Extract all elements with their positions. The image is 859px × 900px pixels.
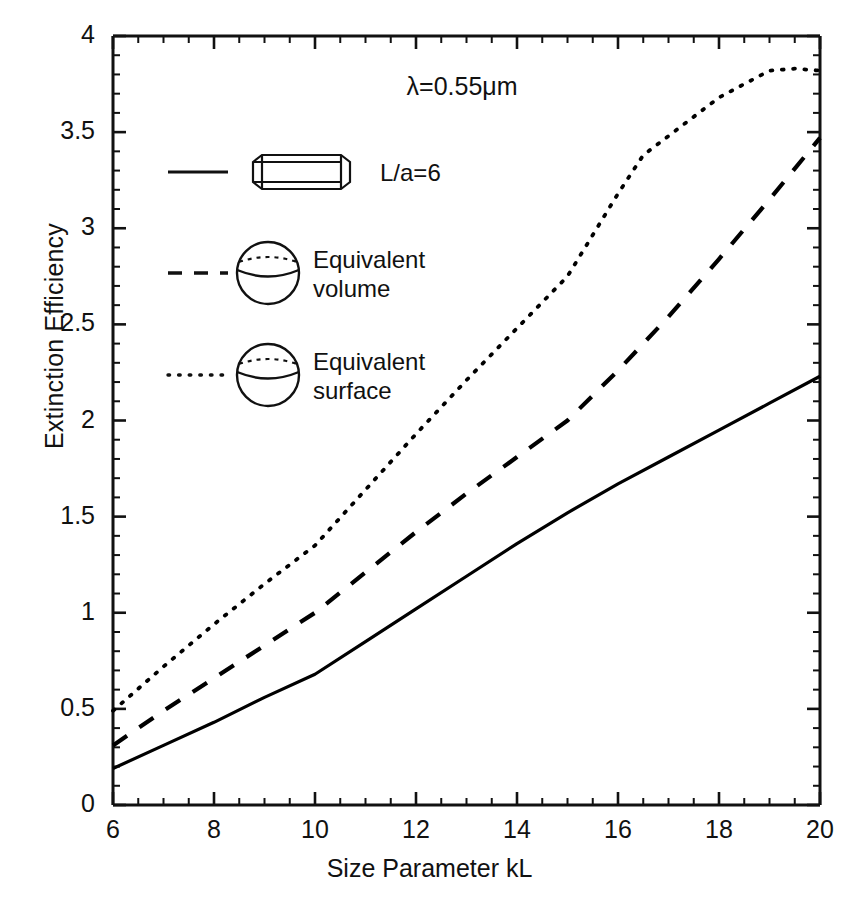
y-tick-label: 2.5 (35, 308, 95, 337)
x-tick-label: 16 (588, 815, 648, 844)
y-tick-label: 0 (35, 789, 95, 818)
series-layer (113, 69, 820, 769)
series-line-2 (113, 69, 820, 711)
y-tick-label: 3 (35, 212, 95, 241)
legend-label-0: L/a=6 (380, 158, 441, 187)
sphere-icon-volume (237, 242, 299, 304)
figure: Extinction Efficiency Size Parameter kL … (0, 0, 859, 900)
x-tick-label: 8 (184, 815, 244, 844)
x-tick-label: 6 (83, 815, 143, 844)
legend-label-1: Equivalent volume (313, 245, 425, 303)
lambda-annotation: λ=0.55μm (407, 72, 518, 101)
x-tick-label: 10 (285, 815, 345, 844)
legend-label-2: Equivalent surface (313, 347, 425, 405)
axes-frame (113, 36, 820, 805)
y-tick-label: 0.5 (35, 693, 95, 722)
x-tick-label: 14 (487, 815, 547, 844)
series-line-1 (113, 138, 820, 746)
x-tick-label: 20 (790, 815, 850, 844)
x-tick-label: 12 (386, 815, 446, 844)
cylinder-icon (253, 155, 350, 189)
y-tick-label: 1.5 (35, 501, 95, 530)
y-tick-label: 1 (35, 597, 95, 626)
x-axis-title: Size Parameter kL (0, 854, 859, 883)
y-tick-label: 3.5 (35, 116, 95, 145)
chart-canvas (0, 0, 859, 900)
series-line-0 (113, 376, 820, 768)
x-tick-label: 18 (689, 815, 749, 844)
y-tick-label: 2 (35, 405, 95, 434)
ticks-layer (113, 36, 820, 805)
y-tick-label: 4 (35, 20, 95, 49)
sphere-icon-surface (237, 344, 299, 406)
